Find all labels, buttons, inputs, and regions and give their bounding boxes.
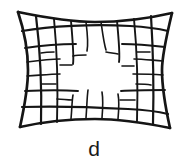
grid-line-vertical [36,16,41,124]
grid-stub [41,52,54,53]
figure-container: d [0,0,188,168]
grid-horizontal-lines-left [22,25,168,114]
grid-stub [106,52,118,54]
grid-line-vertical [71,21,73,64]
figure-caption-label: d [0,136,188,162]
border-top-edge [18,12,172,22]
grid-vertical-lines-bottom [71,90,119,119]
grid-line-vertical-stub [102,92,103,118]
grid-line-vertical [117,21,119,62]
grid-line-horizontal [122,44,165,47]
grid-line-vertical-stub [118,94,119,119]
grid-line-horizontal [121,90,165,91]
grid-line-horizontal-stub [134,59,163,61]
grid-line-horizontal-stub [27,74,60,76]
border-bottom-edge [20,119,170,128]
pincushion-grid-illustration [0,0,188,140]
grid-stub [57,99,72,100]
grid-line-horizontal [25,90,78,91]
grid-line-horizontal [25,44,76,48]
grid-line-vertical [151,16,153,124]
grid-line-vertical [134,19,137,121]
grid-line-horizontal [22,25,168,31]
grid-line-horizontal [22,107,168,114]
grid-line-horizontal-stub [27,59,60,62]
grid-line-vertical-stub [86,90,88,118]
grid-stub [73,55,86,56]
